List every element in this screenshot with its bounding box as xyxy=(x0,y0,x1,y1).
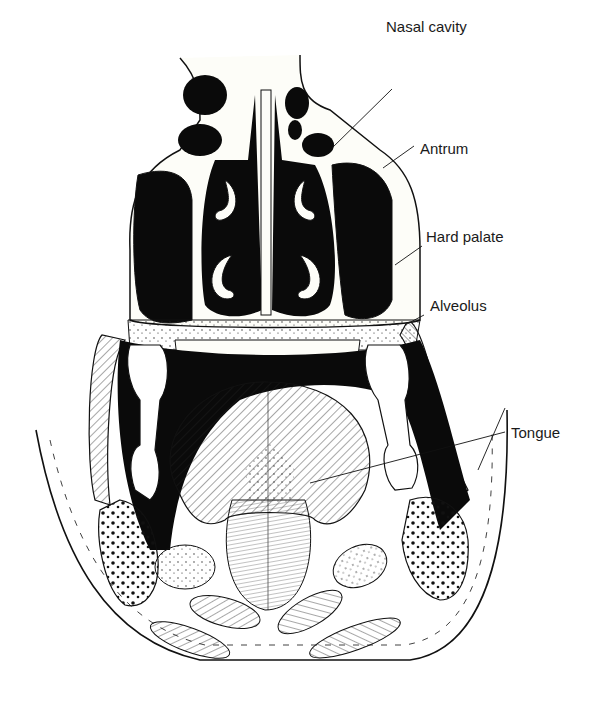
nasal-septum xyxy=(261,90,271,315)
nasal-complex xyxy=(130,55,420,328)
antrum-left xyxy=(134,171,192,323)
label-hard-palate: Hard palate xyxy=(426,228,504,245)
label-antrum: Antrum xyxy=(420,140,468,157)
sublingual-gland-right xyxy=(326,536,394,596)
label-nasal-cavity: Nasal cavity xyxy=(386,18,467,35)
label-alveolus: Alveolus xyxy=(430,297,487,314)
mandible-right xyxy=(402,497,468,600)
diagram-artwork xyxy=(0,0,611,712)
sublingual-gland-left xyxy=(155,545,215,589)
label-tongue: Tongue xyxy=(511,424,560,441)
anatomy-diagram xyxy=(0,0,611,712)
